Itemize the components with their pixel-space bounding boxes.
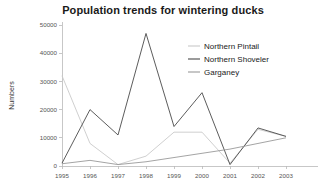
legend-label-1: Northern Shoveler — [204, 55, 269, 64]
y-tick-label: 0 — [54, 162, 58, 169]
x-tick-label: 2001 — [223, 172, 237, 179]
legend-label-2: Garganey — [204, 68, 239, 77]
chart-plot: 01000020000300004000050000Numbers1995199… — [0, 0, 326, 188]
series-line-northern-pintail — [62, 76, 286, 165]
x-tick-label: 1995 — [55, 172, 69, 179]
legend-label-0: Northern Pintail — [204, 42, 259, 51]
y-tick-label: 10000 — [40, 134, 58, 141]
x-tick-label: 1999 — [167, 172, 181, 179]
x-tick-label: 1996 — [83, 172, 97, 179]
x-tick-label: 1998 — [139, 172, 153, 179]
x-tick-label: 2000 — [195, 172, 209, 179]
y-tick-label: 40000 — [40, 49, 58, 56]
y-axis-title: Numbers — [8, 81, 15, 110]
x-tick-label: 2002 — [251, 172, 265, 179]
y-tick-label: 30000 — [40, 78, 58, 85]
chart-screenshot: Population trends for wintering ducks 01… — [0, 0, 326, 188]
series-line-garganey — [62, 138, 286, 165]
y-tick-label: 20000 — [40, 106, 58, 113]
x-tick-label: 2003 — [279, 172, 293, 179]
y-tick-label: 50000 — [40, 21, 58, 28]
x-tick-label: 1997 — [111, 172, 125, 179]
